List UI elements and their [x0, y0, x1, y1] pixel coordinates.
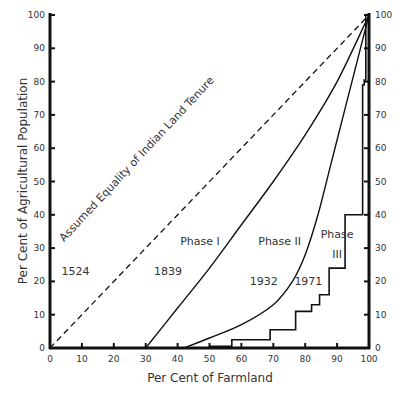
annotation: 1932 [250, 275, 278, 288]
annotation: Phase I [180, 235, 220, 248]
y-tick-label-right: 30 [375, 243, 387, 253]
y-axis-label: Per Cent of Agricultural Population [16, 78, 30, 285]
x-tick-label: 80 [299, 354, 311, 364]
x-tick-label: 100 [360, 354, 377, 364]
y-tick-label-right: 40 [375, 210, 387, 220]
y-tick-label: 70 [34, 110, 46, 120]
y-tick-label: 0 [39, 343, 45, 353]
x-tick-label: 30 [140, 354, 152, 364]
y-tick-label: 60 [34, 143, 46, 153]
y-tick-label-right: 70 [375, 110, 387, 120]
y-tick-label-right: 50 [375, 177, 387, 187]
y-tick-label: 40 [34, 210, 46, 220]
annotation: Phase [321, 228, 354, 241]
series-1932 [184, 15, 369, 348]
axes: 0010102020303040405050606070708080909010… [28, 10, 393, 364]
x-axis-label: Per Cent of Farmland [147, 371, 273, 385]
annotation: Assumed Equality of Indian Land Tenure [57, 74, 217, 244]
x-tick-label: 90 [331, 354, 343, 364]
y-tick-label: 80 [34, 77, 46, 87]
x-tick-label: 20 [108, 354, 120, 364]
x-tick-label: 60 [236, 354, 248, 364]
series-1971 [210, 15, 366, 346]
y-tick-label-right: 90 [375, 43, 387, 53]
y-tick-label-right: 10 [375, 310, 387, 320]
annotation: III [332, 248, 342, 261]
annotation: 1839 [154, 265, 182, 278]
y-tick-label: 20 [34, 276, 46, 286]
y-tick-label-right: 100 [375, 10, 392, 20]
x-tick-label: 50 [204, 354, 216, 364]
x-tick-label: 70 [268, 354, 280, 364]
annotation: 1971 [294, 275, 322, 288]
y-tick-label-right: 60 [375, 143, 387, 153]
series-1839 [146, 15, 369, 348]
lorenz-chart: 0010102020303040405050606070708080909010… [0, 0, 403, 395]
series-1524 [50, 15, 369, 348]
x-tick-label: 40 [172, 354, 184, 364]
y-tick-label: 100 [28, 10, 45, 20]
annotation: 1524 [62, 265, 90, 278]
y-tick-label: 10 [34, 310, 46, 320]
y-tick-label-right: 20 [375, 276, 387, 286]
y-tick-label: 50 [34, 177, 46, 187]
series-lines [50, 15, 369, 348]
y-tick-label: 90 [34, 43, 46, 53]
x-tick-label: 10 [76, 354, 88, 364]
y-tick-label-right: 80 [375, 77, 387, 87]
y-tick-label: 30 [34, 243, 46, 253]
annotation: Phase II [258, 235, 301, 248]
annotations: Assumed Equality of Indian Land TenurePh… [57, 74, 354, 288]
x-tick-label: 0 [47, 354, 53, 364]
y-tick-label-right: 0 [375, 343, 381, 353]
